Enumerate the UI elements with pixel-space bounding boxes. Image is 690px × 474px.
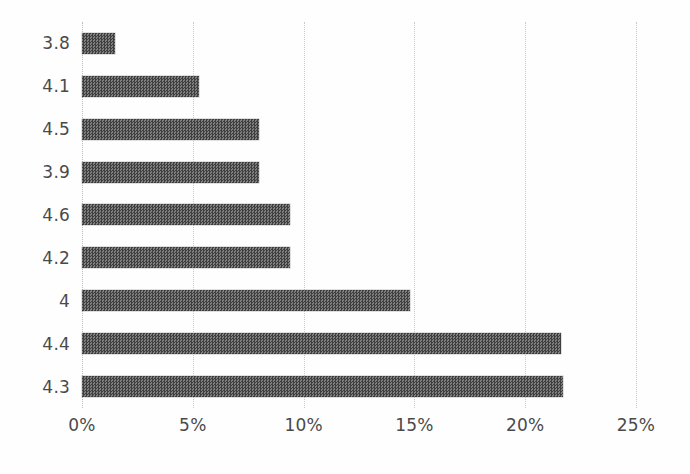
y-axis-label: 4	[0, 279, 70, 322]
x-axis-label: 20%	[506, 415, 544, 435]
bar-4.3	[82, 376, 563, 397]
bar-chart: 3.84.14.53.94.64.244.44.3 0%5%10%15%20%2…	[0, 0, 690, 474]
y-axis-label: 4.4	[0, 322, 70, 365]
bar-row	[82, 65, 636, 108]
y-axis-label: 4.3	[0, 365, 70, 408]
bar-row	[82, 365, 636, 408]
bar-row	[82, 22, 636, 65]
y-axis-label: 4.6	[0, 194, 70, 237]
bar-row	[82, 322, 636, 365]
y-axis-label: 4.1	[0, 65, 70, 108]
x-axis-label: 15%	[395, 415, 433, 435]
bar-row	[82, 236, 636, 279]
x-axis-label: 5%	[179, 415, 206, 435]
bar-row	[82, 279, 636, 322]
y-axis-label: 4.5	[0, 108, 70, 151]
y-axis-label: 3.9	[0, 151, 70, 194]
bar-4.6	[82, 204, 290, 225]
x-axis-label: 25%	[617, 415, 655, 435]
bar-4	[82, 290, 410, 311]
bars	[82, 22, 636, 408]
bar-row	[82, 108, 636, 151]
y-axis-label: 3.8	[0, 22, 70, 65]
plot-area	[82, 22, 636, 408]
bar-row	[82, 194, 636, 237]
bar-row	[82, 151, 636, 194]
gridline-25%	[636, 22, 638, 408]
bar-3.9	[82, 162, 259, 183]
bar-4.4	[82, 333, 561, 354]
bar-4.1	[82, 76, 199, 97]
bar-3.8	[82, 33, 115, 54]
bar-4.5	[82, 119, 259, 140]
x-axis-label: 0%	[68, 415, 95, 435]
x-axis-label: 10%	[284, 415, 322, 435]
y-axis-labels: 3.84.14.53.94.64.244.44.3	[0, 22, 70, 408]
y-axis-label: 4.2	[0, 236, 70, 279]
x-axis-labels: 0%5%10%15%20%25%	[0, 415, 690, 455]
bar-4.2	[82, 247, 290, 268]
